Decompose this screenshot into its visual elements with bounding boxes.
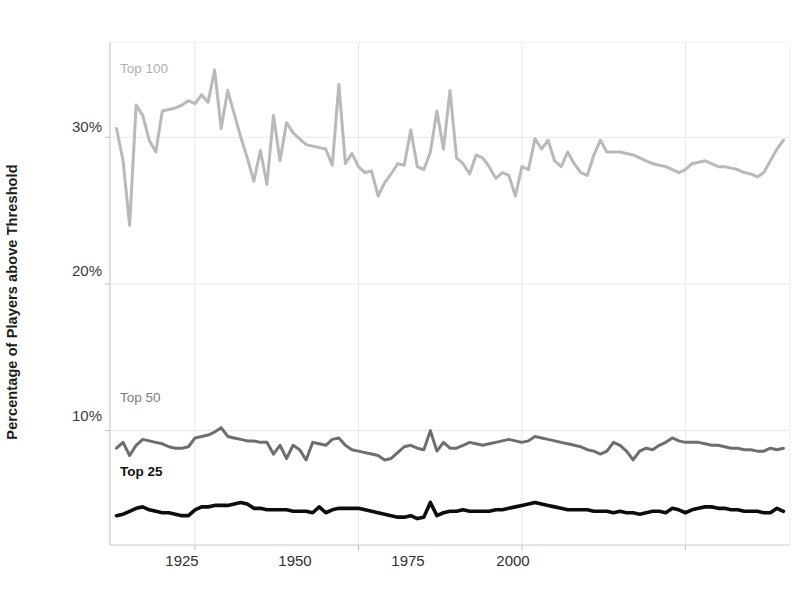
x-tick-label-1925: 1925 [142,552,222,569]
series-line-top-100 [117,70,784,225]
series-line-top-50 [117,428,784,460]
series-label-top-50: Top 50 [120,390,161,405]
x-tick-label-1950: 1950 [255,552,335,569]
gridlines [110,42,790,545]
series-label-top-100: Top 100 [120,61,168,76]
plot-area [0,0,812,604]
series-label-top-25: Top 25 [120,464,163,479]
chart-figure: Percentage of Players above Threshold 30… [0,0,812,604]
series-line-top-25 [117,502,784,518]
y-tick-label-20: 20% [40,262,102,279]
y-tick-label-30: 30% [40,118,102,135]
y-tick-label-10: 10% [40,407,102,424]
x-tick-label-2000: 2000 [473,552,553,569]
x-tick-label-1975: 1975 [368,552,448,569]
